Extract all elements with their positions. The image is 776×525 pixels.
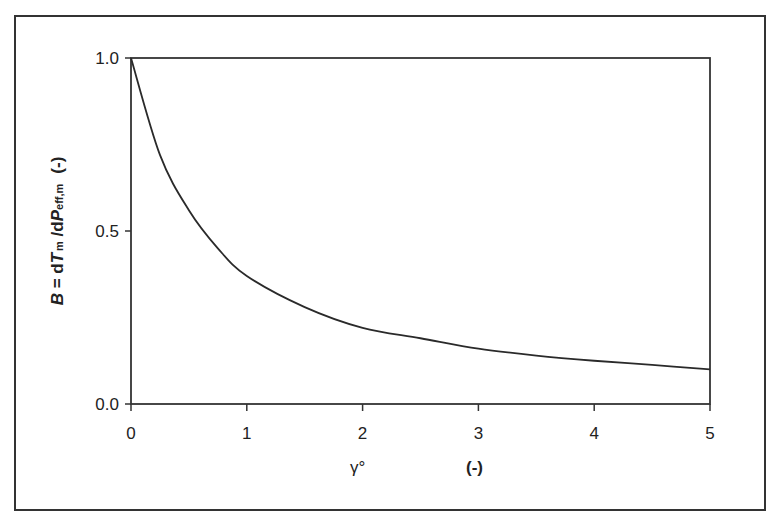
y-tick-label: 0.0 — [95, 395, 119, 414]
y-axis-title: B = dTm /dPeff,m(-) — [48, 157, 67, 306]
x-tick-label: 5 — [705, 424, 714, 443]
plot-area — [131, 58, 710, 404]
x-axis-ticks: 012345 — [126, 404, 714, 443]
x-tick-label: 0 — [126, 424, 135, 443]
y-axis-ticks: 0.00.51.0 — [95, 49, 131, 414]
x-axis-unit: (-) — [466, 458, 483, 477]
x-tick-label: 3 — [474, 424, 483, 443]
data-line-B — [131, 58, 710, 369]
x-tick-label: 1 — [242, 424, 251, 443]
y-tick-label: 0.5 — [95, 222, 119, 241]
x-axis-title: γ° — [350, 458, 365, 477]
x-tick-label: 2 — [358, 424, 367, 443]
chart: 0.00.51.0 012345 γ° (-) B = dTm /dPeff,m… — [0, 0, 776, 525]
x-tick-label: 4 — [589, 424, 598, 443]
y-tick-label: 1.0 — [95, 49, 119, 68]
